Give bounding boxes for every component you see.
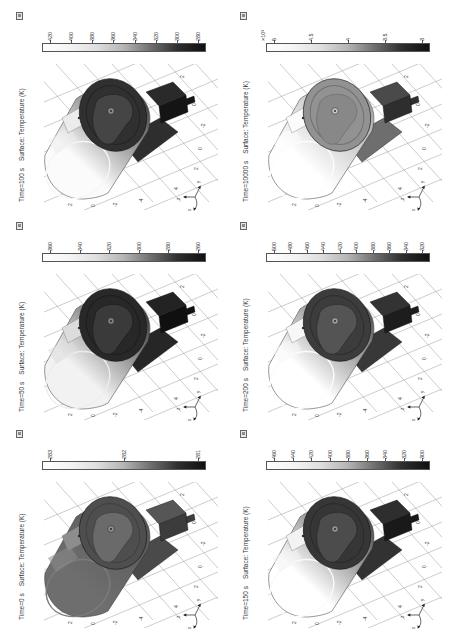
- axis-tick-label: 4: [397, 187, 403, 190]
- colorbar-tick-label: 400: [327, 450, 333, 459]
- axis-tick-label: -4: [362, 616, 368, 621]
- temperature-colorbar: 460440420400380360340320300: [258, 438, 430, 474]
- figure-page: 420400380360340320300280 Time=100 sSurfa…: [0, 0, 451, 641]
- colorbar-tick-label: 340: [132, 32, 138, 41]
- axis-tick-label: 0: [314, 622, 320, 625]
- plot-title: Time=10000 sSurface: Temperature (K): [242, 81, 250, 202]
- axis-tick-label: 2: [403, 493, 409, 496]
- colorbar-tick-label: 360: [386, 242, 392, 251]
- axis-label-x: x: [411, 626, 416, 629]
- colorbar-gradient-bar: [42, 253, 206, 262]
- axis-triad: [183, 395, 201, 420]
- axis-tick-label: -2: [200, 123, 206, 128]
- colorbar-tick-label: 420: [337, 242, 343, 251]
- colorbar-tick-label: 340: [403, 242, 409, 251]
- axis-label-y: y: [196, 390, 201, 393]
- axis-triad-labels: zyx: [176, 180, 201, 211]
- axis-triad-labels: zyx: [176, 390, 201, 421]
- colorbar-tick-label: 420: [47, 32, 53, 41]
- subplot-time-50s: 360340320300280260 Time=50 sSurface: Tem…: [8, 220, 223, 425]
- time-label: Time=200 s: [242, 378, 249, 412]
- axis-tick-label: -2: [424, 541, 430, 546]
- axis-tick-label: 2: [403, 75, 409, 78]
- colorbar-tick-label: 440: [320, 242, 326, 251]
- colorbar-tick-label: 360: [364, 450, 370, 459]
- axis-tick-label: 2: [67, 413, 73, 416]
- colorbar-tick-label: 282: [121, 450, 127, 459]
- subplot-time-200s: 500480460440420400380360340320 Time=200 …: [232, 220, 447, 425]
- subplot-time-100s: 420400380360340320300280 Time=100 sSurfa…: [8, 10, 223, 215]
- time-label: Time=150 s: [242, 586, 249, 620]
- subplot-time-150s: 460440420400380360340320300 Time=150 sSu…: [232, 428, 447, 633]
- colorbar-tick-label: 300: [174, 32, 180, 41]
- axis-tick-label: 0: [421, 147, 427, 150]
- axis-tick-label: 0: [197, 357, 203, 360]
- axis-tick-label: 2: [417, 585, 423, 588]
- axis-tick-label: 2: [179, 285, 185, 288]
- axis-tick-label: 2: [179, 493, 185, 496]
- axis-tick-label: 2: [193, 377, 199, 380]
- temperature-colorbar: 283282281: [34, 438, 206, 474]
- axis-tick-label: -4: [138, 408, 144, 413]
- axis-tick-label: -4: [362, 408, 368, 413]
- model-3d-scene: 20-2-420-2024zyx: [266, 272, 444, 422]
- temperature-colorbar: 500480460440420400380360340320: [258, 230, 430, 266]
- axis-tick-label: 2: [417, 377, 423, 380]
- colorbar-tick-label: 300: [136, 242, 142, 251]
- axis-triad-labels: zyx: [176, 598, 201, 629]
- colorbar-gradient-bar: [266, 43, 430, 52]
- colorbar-tick-label: 4: [345, 38, 351, 41]
- time-label: Time=10000 s: [242, 161, 249, 202]
- colorbar-tick-label: 400: [68, 32, 74, 41]
- plot-title: Time=0 sSurface: Temperature (K): [18, 513, 26, 620]
- axis-tick-label: 0: [191, 103, 197, 106]
- axis-triad: [183, 603, 201, 628]
- axis-tick-label: 4: [397, 397, 403, 400]
- colorbar-tick-label: 283: [47, 450, 53, 459]
- model-3d-view: 20-2-420-2024zyx: [266, 62, 444, 212]
- panel-marker-icon: [16, 430, 23, 438]
- colorbar-tick-label: 281: [195, 450, 201, 459]
- plot-title: Time=150 sSurface: Temperature (K): [242, 506, 250, 620]
- axis-tick-label: 2: [417, 167, 423, 170]
- subplot-time-10000s: 54.543.53×10³ Time=10000 sSurface: Tempe…: [232, 10, 447, 215]
- colorbar-tick-label: 380: [370, 242, 376, 251]
- model-3d-scene: 20-2-420-2024zyx: [42, 480, 220, 630]
- plot-title: Time=200 sSurface: Temperature (K): [242, 298, 250, 412]
- colorbar-tick-label: 4.5: [308, 33, 314, 41]
- colorbar-tick-label: 3.5: [382, 33, 388, 41]
- axis-tick-label: -2: [424, 123, 430, 128]
- colorbar-tick-label: 3: [419, 38, 425, 41]
- colorbar-tick-label: 320: [419, 242, 425, 251]
- axis-triad-labels: zyx: [400, 598, 425, 629]
- axis-tick-label: -4: [138, 198, 144, 203]
- axis-triad-labels: zyx: [400, 180, 425, 211]
- axis-tick-label: 0: [415, 313, 421, 316]
- axis-tick-label: 2: [193, 167, 199, 170]
- model-3d-view: 20-2-420-2024zyx: [42, 480, 220, 630]
- axis-tick-label: -2: [112, 202, 118, 207]
- axis-tick-label: 2: [291, 621, 297, 624]
- shaft-bolt-center: [334, 110, 336, 112]
- shaft-bolt-center: [110, 110, 112, 112]
- colorbar-tick-label: 420: [308, 450, 314, 459]
- axis-label-x: x: [187, 208, 192, 211]
- colorbar-tick-label: 460: [271, 450, 277, 459]
- axis-tick-label: 0: [191, 313, 197, 316]
- axis-label-y: y: [420, 390, 425, 393]
- surface-label: Surface: Temperature (K): [242, 81, 249, 154]
- colorbar-tick-label: 380: [345, 450, 351, 459]
- axis-label-x: x: [411, 418, 416, 421]
- surface-label: Surface: Temperature (K): [242, 506, 249, 579]
- axis-tick-label: 0: [421, 565, 427, 568]
- plot-title: Time=100 sSurface: Temperature (K): [18, 88, 26, 202]
- axis-triad-labels: zyx: [400, 390, 425, 421]
- colorbar-tick-label: 460: [304, 242, 310, 251]
- axis-tick-label: 2: [179, 75, 185, 78]
- axis-tick-label: 0: [197, 147, 203, 150]
- axis-tick-label: 0: [314, 204, 320, 207]
- axis-tick-label: -4: [362, 198, 368, 203]
- axis-tick-label: -2: [112, 620, 118, 625]
- axis-tick-label: -2: [336, 620, 342, 625]
- model-3d-scene: 20-2-420-2024zyx: [42, 62, 220, 212]
